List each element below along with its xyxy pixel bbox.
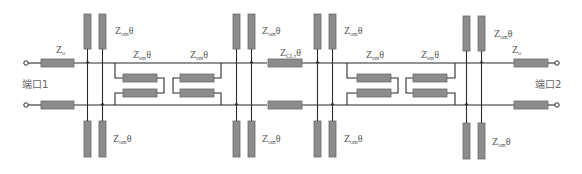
zcl-top-line — [268, 59, 302, 67]
stub-group-3 — [314, 14, 336, 157]
z0-right-label: Zo — [512, 44, 521, 56]
coupled-2-label: Zsmθ — [190, 49, 208, 61]
port1-bottom-terminal — [24, 103, 28, 107]
stub-top-3-label: Zomθ — [344, 25, 363, 37]
stub-group-4 — [463, 16, 485, 159]
stub-top-4-label: Zomθ — [494, 28, 513, 40]
port1-label: 端口1 — [22, 78, 48, 90]
port1-top-terminal — [24, 61, 28, 65]
stub-group-2 — [233, 14, 255, 157]
coupled-3-label: Zsmθ — [366, 49, 384, 61]
z0-left-bottom-line — [41, 101, 74, 109]
port2-top-terminal — [555, 61, 559, 65]
stub-bottom-1-label: Zomθ — [113, 133, 132, 145]
coupled-block-left — [115, 63, 221, 105]
stub-group-1 — [84, 14, 106, 157]
coupled-1-label: Zsmθ — [133, 49, 151, 61]
port2-bottom-terminal — [555, 103, 559, 107]
main-rails — [27, 63, 556, 105]
port2-label: 端口2 — [535, 78, 561, 90]
stub-bottom-3-label: Zomθ — [344, 133, 363, 145]
coupled-4-label: Zsmθ — [421, 49, 439, 61]
stub-top-2-label: Zomθ — [262, 25, 281, 37]
z0-right-bottom-line — [514, 101, 548, 109]
stub-top-1-label: Zomθ — [115, 25, 134, 37]
z0-right-top-line — [514, 59, 548, 67]
z0-left-top-line — [41, 59, 74, 67]
stub-bottom-4-label: Zomθ — [492, 136, 511, 148]
coupled-block-right — [347, 63, 455, 105]
z0-left-label: Zo — [56, 44, 65, 56]
zcl-bottom-line — [268, 101, 302, 109]
center-label: ZCL,θ — [280, 47, 301, 59]
circuit-diagram: 端口1 端口2 Zo Zo Zomθ Zomθ Zomθ Zomθ — [0, 0, 582, 174]
stub-bottom-2-label: Zomθ — [262, 133, 281, 145]
